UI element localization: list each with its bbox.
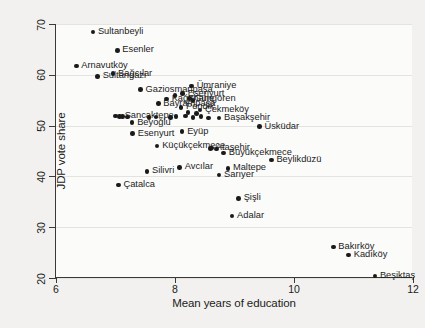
data-point <box>221 151 226 156</box>
data-point <box>346 253 351 258</box>
data-point <box>156 101 161 106</box>
y-tick-label: 30 <box>36 222 47 234</box>
data-point <box>177 165 182 170</box>
data-point <box>208 146 213 151</box>
y-tick-label: 20 <box>36 273 47 285</box>
scatter-plot-figure: 203040506070 681012 SultanbeyliEsenlerAr… <box>0 0 425 328</box>
point-label: Başakşehir <box>224 113 270 122</box>
data-point <box>191 115 196 120</box>
point-label: Çatalca <box>123 180 155 189</box>
data-point <box>130 120 135 125</box>
x-tick-label: 8 <box>172 284 178 295</box>
y-tick: 70 <box>49 24 56 25</box>
data-point <box>95 74 100 79</box>
data-point <box>257 124 262 129</box>
point-label: Adalar <box>237 211 264 220</box>
data-point <box>91 30 96 35</box>
plot-area: 203040506070 681012 SultanbeyliEsenlerAr… <box>55 24 412 278</box>
data-point <box>230 214 235 219</box>
point-label: Kadıköy <box>354 250 388 259</box>
y-axis-label: JDP vote share <box>55 112 67 189</box>
x-tick-label: 10 <box>288 284 300 295</box>
point-label: Beşiktaş <box>380 271 415 280</box>
data-point <box>180 129 185 134</box>
gridline <box>56 227 412 228</box>
y-tick-label: 60 <box>36 69 47 81</box>
y-tick-label: 40 <box>36 171 47 183</box>
data-point <box>116 183 121 188</box>
point-label: Beylikdüzü <box>276 155 321 164</box>
data-point <box>130 131 135 136</box>
x-tick-label: 6 <box>53 284 59 295</box>
data-point <box>155 144 160 149</box>
y-tick-label: 70 <box>36 19 47 31</box>
data-point <box>115 48 120 53</box>
data-point <box>145 169 150 174</box>
y-tick: 60 <box>49 75 56 76</box>
data-point <box>117 114 122 119</box>
gridline <box>56 24 412 25</box>
x-tick-label: 12 <box>407 284 419 295</box>
point-label: Avcılar <box>185 163 213 172</box>
data-point <box>74 64 79 69</box>
point-label: Sarıyer <box>224 170 254 179</box>
point-label: Bağcılar <box>118 69 152 78</box>
point-label: Esenyurt <box>138 129 175 138</box>
point-label: Beyoğlu <box>137 118 171 127</box>
point-label: Esenler <box>122 46 154 55</box>
page-bleed-top <box>16 8 18 16</box>
data-point <box>138 87 143 92</box>
data-point <box>199 114 204 119</box>
point-label: Şişli <box>244 194 261 203</box>
point-label: Silivri <box>152 167 174 176</box>
y-tick: 20 <box>49 278 56 279</box>
point-label: Sultanbeyli <box>98 27 143 36</box>
data-point <box>206 116 211 121</box>
point-label: Eyüp <box>187 127 208 136</box>
data-point <box>174 114 179 119</box>
data-point <box>269 158 274 163</box>
point-label: Üsküdar <box>264 122 299 131</box>
y-tick-label: 50 <box>36 120 47 132</box>
data-point <box>217 116 222 121</box>
y-tick: 30 <box>49 227 56 228</box>
data-point <box>179 105 184 110</box>
data-point <box>236 196 241 201</box>
data-point <box>331 245 336 250</box>
x-axis-label: Mean years of education <box>56 297 412 309</box>
gridline <box>56 126 412 127</box>
gridline <box>56 278 412 279</box>
